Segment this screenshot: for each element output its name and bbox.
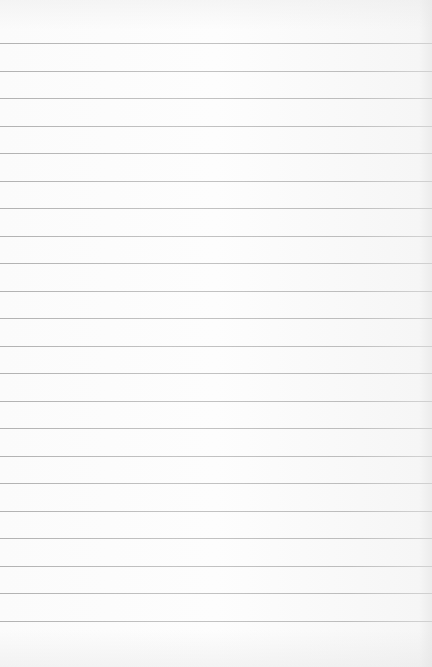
ruled-line (0, 71, 432, 72)
ruled-line (0, 98, 432, 99)
ruled-line (0, 593, 432, 594)
ruled-line (0, 236, 432, 237)
ruled-line (0, 43, 432, 44)
ruled-line (0, 126, 432, 127)
ruled-line (0, 483, 432, 484)
ruled-line (0, 318, 432, 319)
ruled-line (0, 456, 432, 457)
ruled-line (0, 263, 432, 264)
ruled-line (0, 566, 432, 567)
ruled-line (0, 153, 432, 154)
ruled-line (0, 621, 432, 622)
ruled-line (0, 291, 432, 292)
ruled-line (0, 181, 432, 182)
ruled-line (0, 511, 432, 512)
ruled-line (0, 373, 432, 374)
ruled-line (0, 346, 432, 347)
ruled-line (0, 401, 432, 402)
ruled-line (0, 208, 432, 209)
lined-paper-sheet (0, 0, 432, 667)
ruled-line (0, 428, 432, 429)
ruled-line (0, 538, 432, 539)
